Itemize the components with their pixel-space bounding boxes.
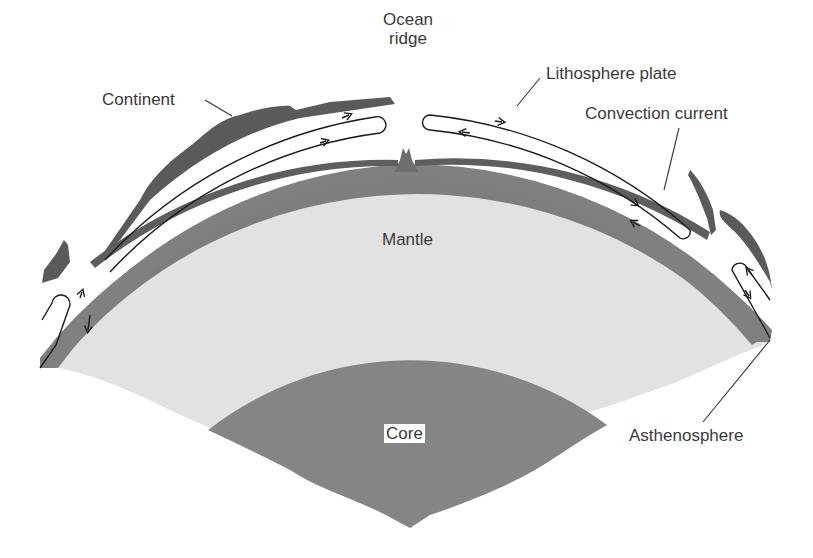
convection-current-label: Convection current bbox=[585, 104, 728, 123]
lithosphere-plate-label: Lithosphere plate bbox=[546, 64, 676, 83]
continent-left-fragment bbox=[42, 240, 70, 283]
ocean-ridge-label: Ocean ridge bbox=[374, 10, 442, 48]
core-label: Core bbox=[384, 424, 425, 443]
mantle-label: Mantle bbox=[382, 230, 433, 249]
convection-current-leader bbox=[664, 128, 679, 190]
continent-right bbox=[720, 210, 772, 290]
lithosphere-plate-leader bbox=[517, 78, 540, 106]
ocean-ridge-label-line1: Ocean bbox=[374, 10, 442, 29]
ocean-ridge-label-line2: ridge bbox=[374, 29, 442, 48]
continent-leader bbox=[205, 100, 232, 116]
asthenosphere-label: Asthenosphere bbox=[629, 426, 743, 445]
continent-label: Continent bbox=[102, 90, 175, 109]
earth-cross-section-diagram bbox=[0, 0, 813, 558]
